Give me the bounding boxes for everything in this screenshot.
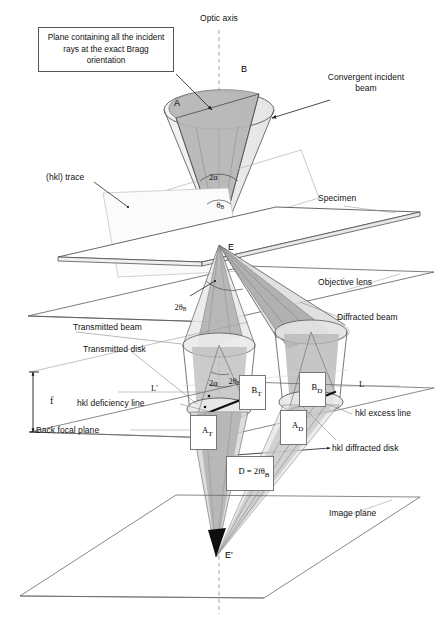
b-transmitted-sub: T (257, 390, 261, 398)
point-label-a-top: A (174, 98, 180, 108)
cbed-ray-diagram: Plane containing all the incident rays a… (0, 0, 438, 624)
point-label-e-prime: E' (225, 550, 233, 560)
point-label-a-transmitted: AT (190, 415, 217, 450)
diffracted-beam-label: Diffracted beam (337, 312, 398, 323)
angle-two-alpha-disk: 2α (209, 378, 218, 388)
convergent-incident-beam-label: Convergent incident beam (306, 72, 426, 94)
image-plane-label: Image plane (329, 508, 376, 519)
point-label-a-diffracted: AD (280, 410, 307, 445)
hkl-deficiency-line-label: hkl deficiency line (77, 398, 145, 409)
a-diffracted-sub: D (298, 425, 303, 433)
theta-b-top-sub: B (221, 204, 225, 210)
two-theta-b-lens-sub: B (183, 306, 187, 312)
disk-diameter-base: D = 2fθ (239, 466, 265, 476)
objective-lens-label: Objective lens (318, 277, 372, 288)
transmitted-disk-label: Transmitted disk (83, 344, 146, 355)
optic-axis-label: Optic axis (179, 13, 259, 24)
point-label-b-transmitted: BT (239, 375, 266, 410)
b-diffracted-sub: D (317, 387, 322, 395)
bragg-plane-callout-box: Plane containing all the incident rays a… (38, 27, 174, 72)
focal-length-label: f (50, 395, 53, 406)
point-label-b-top: B (241, 64, 247, 74)
hkl-trace-label: (hkl) trace (46, 172, 84, 183)
disk-diameter-label: D = 2fθB (226, 456, 274, 491)
angle-theta-b-top: θB (208, 190, 224, 220)
hkl-excess-line-label: hkl excess line (355, 408, 411, 419)
point-label-b-diffracted: BD (299, 372, 326, 407)
point-label-e-specimen: E (228, 242, 234, 252)
hkl-diffracted-disk-label: hkl diffracted disk (332, 443, 398, 454)
a-transmitted-sub: T (208, 430, 212, 438)
excess-distance-label: L (359, 379, 364, 389)
disk-diameter-sub: B (265, 471, 270, 479)
angle-two-alpha-top: 2α (209, 172, 218, 182)
transmitted-beam-label: Transmitted beam (73, 322, 142, 333)
two-theta-b-disk-base: 2θ (229, 376, 237, 386)
deficiency-distance-label: L' (151, 383, 158, 393)
angle-two-theta-b-lens: 2θB (166, 292, 187, 322)
specimen-label: Specimen (318, 193, 356, 204)
back-focal-plane-label: Back focal plane (36, 425, 99, 436)
two-theta-b-lens-base: 2θ (175, 302, 183, 312)
angle-two-theta-b-disk: 2θB (220, 366, 241, 396)
